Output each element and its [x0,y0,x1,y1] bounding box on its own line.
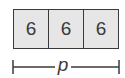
tape-diagram: 6 6 6 [13,9,119,49]
tape-cell: 6 [84,10,118,48]
bracket-label: p [55,55,71,75]
tape-cell: 6 [49,10,84,48]
tape-cell: 6 [14,10,49,48]
